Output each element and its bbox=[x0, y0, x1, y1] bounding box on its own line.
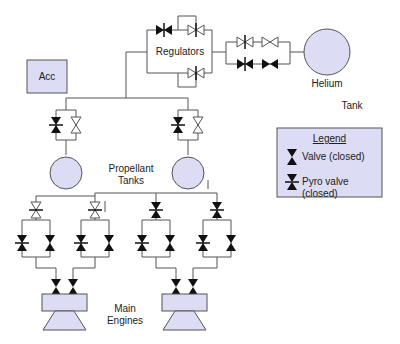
legend-title: Legend bbox=[277, 133, 382, 145]
legend-item-pyro-valve: Pyro valve (closed) bbox=[302, 176, 386, 200]
main-engines-label: Main Engines bbox=[100, 303, 150, 327]
acc-label: Acc bbox=[27, 71, 67, 83]
main-label-line2: Engines bbox=[100, 315, 150, 327]
helium-label: Helium bbox=[303, 78, 351, 90]
propellant-label-line2: Tanks bbox=[98, 175, 164, 187]
tank-label: Tank bbox=[332, 100, 372, 112]
propellant-tanks-label: Propellant Tanks bbox=[98, 163, 164, 187]
propellant-label-line1: Propellant bbox=[98, 163, 164, 175]
legend-item-valve: Valve (closed) bbox=[302, 151, 382, 163]
regulators-label: Regulators bbox=[150, 46, 210, 58]
main-label-line1: Main bbox=[100, 303, 150, 315]
